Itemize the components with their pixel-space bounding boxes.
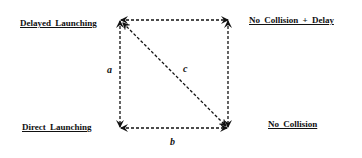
edge-diagonal-arrow (123, 23, 226, 126)
node-no-collision-delay: No Collision + Delay (249, 15, 334, 25)
edge-label-b: b (170, 136, 175, 147)
node-no-collision: No Collision (268, 119, 317, 129)
node-direct-launching: Direct Launching (22, 122, 92, 132)
edge-label-a: a (107, 64, 112, 75)
edge-label-c: c (183, 63, 187, 74)
node-delayed-launching: Delayed Launching (20, 18, 97, 28)
